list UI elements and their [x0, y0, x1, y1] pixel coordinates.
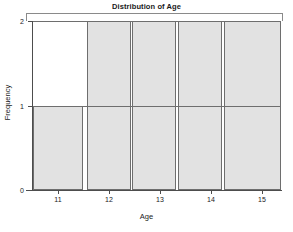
x-tick	[160, 190, 161, 194]
y-tick-label: 1	[14, 103, 24, 110]
x-tick-label: 15	[249, 196, 275, 203]
gridline-y2	[33, 21, 281, 22]
y-axis-label: Frequency	[3, 73, 12, 133]
y-tick	[28, 190, 32, 191]
gridline-y1	[33, 106, 281, 107]
x-tick	[211, 190, 212, 194]
x-tick	[262, 190, 263, 194]
y-tick	[28, 106, 32, 107]
x-tick-label: 13	[147, 196, 173, 203]
x-tick	[58, 190, 59, 194]
plot-outer-frame	[26, 13, 283, 21]
y-tick-label: 0	[14, 187, 24, 194]
x-tick-label: 14	[198, 196, 224, 203]
x-tick	[109, 190, 110, 194]
y-tick	[28, 21, 32, 22]
x-tick-label: 11	[45, 196, 71, 203]
y-tick-label: 2	[14, 18, 24, 25]
histogram-distribution-of-age: Distribution of Age 11 12 13 14 15 0 1 2…	[0, 0, 293, 232]
x-axis-line	[26, 190, 282, 191]
chart-title: Distribution of Age	[0, 2, 293, 11]
y-axis-line	[32, 21, 33, 191]
x-axis-label: Age	[0, 212, 293, 221]
histogram-bar	[33, 106, 83, 190]
x-tick-label: 12	[96, 196, 122, 203]
